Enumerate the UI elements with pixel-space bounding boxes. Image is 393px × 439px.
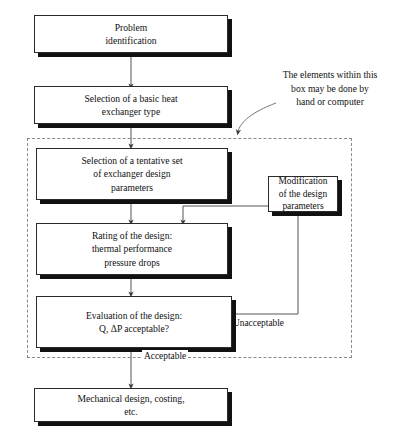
node-problem-identification[interactable]: Problem identification [34, 15, 228, 53]
node-mechanical-design-costing-label: Mechanical design, costing, etc. [72, 392, 189, 418]
node-modification-of-parameters[interactable]: Modification of the design parameters [268, 176, 338, 212]
node-modification-of-parameters-label: Modification of the design parameters [274, 175, 333, 214]
node-basic-exchanger-type[interactable]: Selection of a basic heat exchanger type [34, 86, 228, 124]
node-tentative-design-parameters-label: Selection of a tentative set of exchange… [76, 154, 187, 194]
node-basic-exchanger-type-label: Selection of a basic heat exchanger type [79, 92, 182, 118]
edge-label-acceptable: Acceptable [142, 350, 188, 363]
node-mechanical-design-costing[interactable]: Mechanical design, costing, etc. [34, 388, 228, 422]
node-rating-of-design[interactable]: Rating of the design: thermal performanc… [36, 223, 228, 275]
connector-layer [0, 0, 393, 439]
edge-modification-to-rating [183, 206, 268, 222]
edge-evaluation-unacceptable-to-modification [232, 212, 298, 314]
node-problem-identification-label: Problem identification [100, 21, 161, 47]
edge-label-unacceptable: Unacceptable [233, 317, 284, 330]
node-tentative-design-parameters[interactable]: Selection of a tentative set of exchange… [36, 148, 228, 200]
node-rating-of-design-label: Rating of the design: thermal performanc… [87, 229, 177, 269]
node-evaluation-of-design-label: Evaluation of the design: Q, ΔP acceptab… [81, 309, 187, 335]
flowchart-canvas: Problem identification Selection of a ba… [0, 0, 393, 439]
annotation-hand-or-computer: The elements within this box may be done… [271, 68, 389, 109]
node-evaluation-of-design[interactable]: Evaluation of the design: Q, ΔP acceptab… [36, 296, 232, 348]
